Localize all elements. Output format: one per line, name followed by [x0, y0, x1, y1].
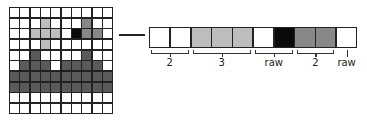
- grid-cell: [31, 93, 40, 102]
- grid-cell: [10, 93, 19, 102]
- grid-cell: [20, 8, 29, 17]
- grid-cell: [10, 61, 19, 70]
- grid-cell: [62, 19, 71, 28]
- strip-cell: [171, 28, 190, 47]
- grid-cell: [103, 40, 112, 49]
- grid-cell: [82, 83, 91, 92]
- grid-cell: [10, 40, 19, 49]
- grid-cell: [103, 51, 112, 60]
- grid-cell: [62, 72, 71, 81]
- grid-cell: [103, 19, 112, 28]
- grid-cell: [72, 104, 81, 113]
- bracket: [297, 50, 335, 54]
- grid-cell: [31, 72, 40, 81]
- grid-cell: [51, 51, 60, 60]
- grid-cell: [10, 104, 19, 113]
- grid-cell: [93, 19, 102, 28]
- strip-cell: [316, 28, 335, 47]
- grid-cell: [41, 83, 50, 92]
- grid-cell: [62, 61, 71, 70]
- grid-cell: [72, 93, 81, 102]
- strip-cell: [192, 28, 211, 47]
- grid-cell: [93, 40, 102, 49]
- grid-cell: [41, 72, 50, 81]
- grid-cell: [93, 72, 102, 81]
- grid-cell: [72, 40, 81, 49]
- grid-cell: [62, 104, 71, 113]
- row-strip: [149, 27, 357, 48]
- bracket: [255, 50, 293, 54]
- grid-cell: [72, 61, 81, 70]
- run-label: raw: [337, 57, 355, 68]
- grid-cell: [20, 51, 29, 60]
- grid-cell: [103, 104, 112, 113]
- grid-cell: [62, 83, 71, 92]
- grid-cell: [93, 61, 102, 70]
- grid-cell: [72, 19, 81, 28]
- grid-cell: [10, 51, 19, 60]
- grid-cell: [41, 8, 50, 17]
- grid-cell: [93, 8, 102, 17]
- grid-cell: [31, 40, 40, 49]
- grid-cell: [82, 8, 91, 17]
- grid-cell: [31, 83, 40, 92]
- grid-cell: [51, 29, 60, 38]
- grid-cell: [20, 29, 29, 38]
- bracket: [193, 50, 251, 54]
- pixel-grid: [9, 7, 113, 114]
- grid-cell: [82, 19, 91, 28]
- grid-cell: [72, 72, 81, 81]
- grid-cell: [20, 40, 29, 49]
- connector-line: [119, 34, 145, 36]
- grid-cell: [93, 29, 102, 38]
- grid-cell: [103, 29, 112, 38]
- grid-cell: [20, 83, 29, 92]
- grid-cell: [51, 104, 60, 113]
- grid-cell: [82, 40, 91, 49]
- grid-cell: [10, 72, 19, 81]
- grid-cell: [103, 93, 112, 102]
- run-label: raw: [265, 57, 283, 68]
- grid-cell: [62, 40, 71, 49]
- run-label: 2: [312, 57, 318, 68]
- grid-cell: [10, 83, 19, 92]
- grid-cell: [20, 104, 29, 113]
- grid-cell: [82, 104, 91, 113]
- grid-cell: [31, 19, 40, 28]
- grid-cell: [62, 8, 71, 17]
- grid-cell: [20, 72, 29, 81]
- grid-cell: [51, 40, 60, 49]
- grid-cell: [82, 72, 91, 81]
- grid-cell: [31, 8, 40, 17]
- grid-cell: [72, 29, 81, 38]
- strip-cell: [212, 28, 231, 47]
- grid-cell: [51, 93, 60, 102]
- grid-cell: [51, 83, 60, 92]
- run-label: 3: [219, 57, 225, 68]
- strip-cell: [295, 28, 314, 47]
- grid-cell: [93, 93, 102, 102]
- grid-cell: [10, 19, 19, 28]
- strip-cell: [233, 28, 252, 47]
- grid-cell: [41, 19, 50, 28]
- grid-cell: [93, 51, 102, 60]
- grid-cell: [82, 29, 91, 38]
- grid-cell: [31, 104, 40, 113]
- grid-cell: [51, 19, 60, 28]
- grid-cell: [93, 83, 102, 92]
- grid-cell: [41, 61, 50, 70]
- grid-cell: [103, 8, 112, 17]
- grid-cell: [72, 51, 81, 60]
- bracket: [151, 50, 189, 54]
- grid-cell: [41, 51, 50, 60]
- grid-cell: [41, 40, 50, 49]
- grid-cell: [103, 83, 112, 92]
- grid-cell: [72, 83, 81, 92]
- grid-cell: [31, 51, 40, 60]
- grid-cell: [31, 29, 40, 38]
- grid-cell: [93, 104, 102, 113]
- tick-mark: [347, 50, 348, 57]
- grid-cell: [41, 29, 50, 38]
- grid-cell: [62, 29, 71, 38]
- grid-cell: [20, 93, 29, 102]
